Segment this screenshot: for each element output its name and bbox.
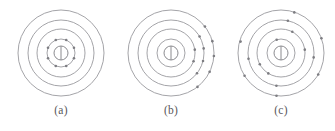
diagram-panel-b: (b) — [116, 0, 226, 131]
electron-dot — [196, 86, 199, 89]
electron-dot — [320, 37, 323, 40]
electron-dot — [291, 31, 294, 34]
bohr-model-figure: (a) — [0, 0, 335, 131]
electron-dot — [275, 94, 278, 97]
electron-dot — [47, 57, 50, 60]
panel-label-c: (c) — [226, 103, 335, 117]
electron-dot — [247, 57, 250, 60]
panel-label-b: (b) — [116, 103, 226, 117]
diagram-panel-a: (a) — [6, 0, 116, 131]
electron-dot — [213, 55, 216, 58]
nucleus-b — [164, 46, 178, 60]
diagram-panel-c: (c) — [226, 0, 335, 131]
atom-diagram-a — [6, 0, 116, 105]
electron-dot — [208, 71, 211, 74]
electron-dot — [211, 40, 214, 43]
electron-dot — [303, 48, 306, 51]
nucleus-c — [274, 46, 288, 60]
electron-dot — [65, 39, 68, 42]
electron-dot — [202, 47, 205, 50]
electron-dot — [267, 72, 270, 75]
electron-dot — [243, 75, 246, 78]
electron-dot — [317, 73, 320, 76]
electron-dot — [73, 57, 76, 60]
electron-dot — [239, 40, 242, 43]
electron-dot — [73, 46, 76, 49]
electron-dot — [312, 56, 315, 59]
electron-dot — [204, 25, 207, 28]
electron-dot — [47, 46, 50, 49]
electron-dot — [192, 60, 195, 63]
electron-dot — [287, 19, 290, 22]
electron-dot — [275, 38, 278, 41]
panel-label-a: (a) — [6, 103, 116, 117]
electron-dot — [293, 11, 296, 14]
electron-dot — [54, 65, 57, 68]
electron-dot — [193, 48, 196, 51]
electron-dot — [259, 63, 262, 66]
electron-dot — [275, 84, 278, 87]
electron-dot — [202, 60, 205, 63]
atom-diagram-c — [226, 0, 335, 105]
atom-diagram-b — [116, 0, 226, 105]
electron-dot — [198, 35, 201, 38]
electron-dot — [54, 39, 57, 42]
electron-dot — [65, 65, 68, 68]
nucleus-a — [54, 46, 68, 60]
electron-dot — [196, 72, 199, 75]
